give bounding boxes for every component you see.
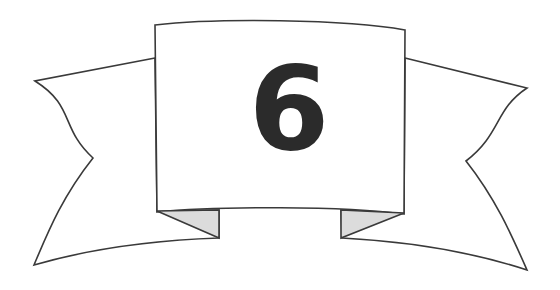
banner-numeral: 6: [249, 41, 330, 176]
ribbon-banner-graphic: Numbered ribbon banner 6: [0, 0, 560, 290]
banner-canvas: Numbered ribbon banner 6: [0, 0, 560, 290]
